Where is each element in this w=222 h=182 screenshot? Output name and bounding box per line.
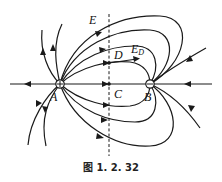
label-e: E bbox=[88, 13, 97, 27]
label-d: D bbox=[113, 48, 123, 62]
label-a: A bbox=[49, 90, 58, 104]
arrow-axis-left bbox=[24, 81, 31, 87]
point-c bbox=[107, 82, 111, 86]
charge-b bbox=[146, 80, 154, 88]
charge-a bbox=[56, 80, 64, 88]
figure-caption: 图 1. 2. 32 bbox=[83, 162, 139, 173]
arrow-a-out-1 bbox=[40, 48, 46, 55]
arrow-a-out-2 bbox=[50, 44, 56, 51]
point-d bbox=[107, 61, 111, 65]
label-ed: ED bbox=[130, 42, 144, 57]
label-b: B bbox=[144, 90, 152, 104]
field-line-a-out-2 bbox=[56, 24, 62, 84]
arrow-b-in-2 bbox=[188, 105, 195, 112]
arrow-upper-2 bbox=[99, 47, 106, 53]
arrow-upper-3 bbox=[95, 31, 102, 37]
field-line-lower-2 bbox=[60, 84, 156, 122]
field-line-diagram: E D ED C A B 图 1. 2. 32 bbox=[0, 0, 222, 182]
arrow-axis-right bbox=[184, 81, 191, 87]
label-c: C bbox=[114, 87, 123, 101]
